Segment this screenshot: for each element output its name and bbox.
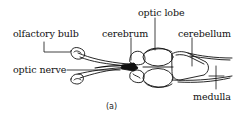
label-olfactory-bulb: olfactory bulb — [13, 28, 79, 39]
label-optic-lobe: optic lobe — [138, 7, 184, 18]
label-cerebrum: cerebrum — [102, 28, 148, 39]
label-cerebellum: cerebellum — [178, 28, 231, 39]
figure-caption: (a) — [106, 102, 117, 111]
label-optic-nerve: optic nerve — [13, 64, 66, 75]
leader-olfactory-bulb — [44, 42, 70, 52]
label-medulla: medulla — [193, 91, 231, 102]
olfactory-bulb-lower — [71, 74, 84, 84]
medulla-upper-edge — [188, 53, 232, 58]
